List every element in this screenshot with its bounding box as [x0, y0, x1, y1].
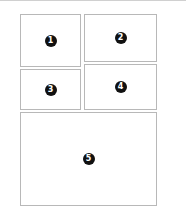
panel-2: 2 [84, 14, 157, 62]
number-badge-2: 2 [115, 32, 127, 44]
number-badge-4: 4 [115, 81, 127, 93]
top-divider [0, 0, 186, 1]
panel-4: 4 [84, 64, 157, 110]
number-badge-3: 3 [45, 84, 57, 96]
number-badge-5: 5 [83, 153, 95, 165]
panel-1: 1 [20, 14, 81, 67]
panel-5: 5 [20, 112, 157, 206]
panel-3: 3 [20, 69, 81, 110]
number-badge-1: 1 [45, 35, 57, 47]
